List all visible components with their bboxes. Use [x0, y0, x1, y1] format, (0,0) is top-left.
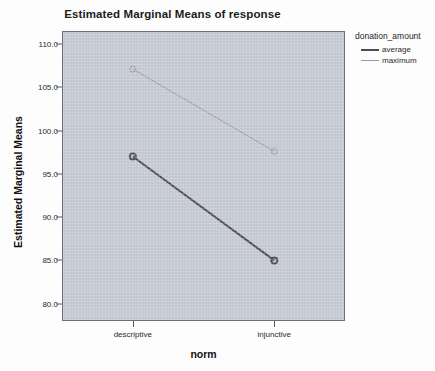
legend-title: donation_amount	[355, 31, 435, 41]
legend-item-label: average	[382, 45, 411, 54]
y-tick-mark	[56, 43, 62, 44]
legend-item-average[interactable]: average	[355, 45, 435, 54]
y-tick-mark	[56, 130, 62, 131]
chart-legend: donation_amount averagemaximum	[355, 31, 435, 65]
y-tick-mark	[56, 173, 62, 174]
legend-item-label: maximum	[382, 56, 417, 65]
x-tick-mark	[274, 321, 275, 327]
legend-entries: averagemaximum	[355, 45, 435, 65]
y-tick-label: 80.0	[16, 299, 58, 308]
series-line-maximum	[133, 69, 275, 151]
plot-series-svg	[63, 32, 344, 320]
x-tick-label: injunctive	[224, 330, 324, 339]
y-axis-title: Estimated Marginal Means	[12, 102, 24, 262]
y-tick-label: 105.0	[16, 83, 58, 92]
y-tick-mark	[56, 303, 62, 304]
y-tick-mark	[56, 87, 62, 88]
data-point-marker-maximum	[271, 148, 277, 154]
series-line-average	[133, 157, 275, 261]
y-tick-mark	[56, 260, 62, 261]
y-tick-mark	[56, 217, 62, 218]
legend-item-maximum[interactable]: maximum	[355, 56, 435, 65]
x-axis-title: norm	[62, 348, 345, 360]
y-tick-label: 110.0	[16, 39, 58, 48]
x-tick-label: descriptive	[83, 330, 183, 339]
legend-line-swatch-icon	[361, 49, 379, 51]
plot-panel	[62, 31, 345, 321]
chart-root: Estimated Marginal Means of response 110…	[0, 0, 435, 371]
legend-line-swatch-icon	[361, 60, 379, 61]
x-tick-mark	[133, 321, 134, 327]
